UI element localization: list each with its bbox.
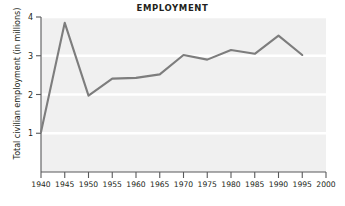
x-tick-label: 1965	[150, 180, 169, 189]
y-tick-label: 4	[28, 13, 33, 22]
employment-line-chart: EMPLOYMENT Total civilian employment (in…	[0, 0, 345, 206]
x-tick-label: 1960	[126, 180, 145, 189]
x-tick-label: 1945	[55, 180, 74, 189]
x-tick-label: 1950	[79, 180, 98, 189]
plot-area: 1940194519501955196019651970197519801985…	[0, 0, 345, 206]
y-axis-ticks	[36, 17, 41, 133]
y-tick-label: 2	[28, 91, 33, 100]
y-tick-label: 1	[28, 129, 33, 138]
x-tick-label: 1955	[103, 180, 122, 189]
x-axis-tick-labels: 1940194519501955196019651970197519801985…	[31, 180, 335, 189]
x-tick-label: 1980	[221, 180, 240, 189]
x-axis-ticks	[41, 172, 326, 178]
x-tick-label: 1940	[31, 180, 50, 189]
x-tick-label: 1970	[174, 180, 193, 189]
x-tick-label: 1985	[245, 180, 264, 189]
x-tick-label: 1975	[198, 180, 217, 189]
x-tick-label: 2000	[316, 180, 335, 189]
y-tick-label: 3	[28, 52, 33, 61]
x-tick-label: 1995	[293, 180, 312, 189]
x-tick-label: 1990	[269, 180, 288, 189]
y-axis-tick-labels: 1234	[28, 13, 33, 138]
